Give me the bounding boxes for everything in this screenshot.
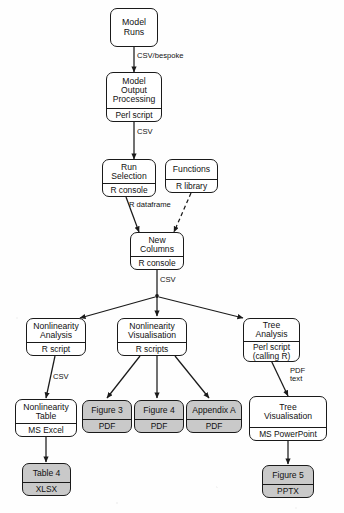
node-model-output-processing[interactable]: Model Output Processing Perl script	[106, 72, 162, 122]
edge-label-csv-to-run-selection: CSV	[137, 128, 153, 136]
node-appendix-a-title: Appendix A	[187, 401, 241, 419]
node-model-output-processing-tool: Perl script	[107, 108, 161, 121]
node-model-runs-title: Model Runs	[111, 9, 157, 46]
node-tree-analysis-tool: Perl script (calling R)	[244, 341, 299, 362]
node-new-columns-title: New Columns	[131, 233, 183, 256]
node-nonlinearity-table[interactable]: Nonlinearity Table MS Excel	[15, 399, 77, 437]
node-figure-5-title: Figure 5	[263, 466, 313, 484]
node-run-selection-tool: R console	[103, 183, 155, 196]
node-nonlinearity-table-tool: MS Excel	[16, 423, 76, 436]
node-nonlinearity-table-title: Nonlinearity Table	[16, 400, 76, 423]
node-figure-3[interactable]: Figure 3 PDF	[82, 400, 132, 433]
node-model-output-processing-title: Model Output Processing	[107, 73, 161, 108]
edge-label-r-dataframe: R dataframe	[129, 201, 171, 209]
node-nonlinearity-analysis-title: Nonlinearity Analysis	[27, 319, 85, 342]
node-run-selection-title: Run Selection	[103, 160, 155, 183]
node-functions-tool: R library	[166, 179, 217, 192]
node-nonlinearity-analysis[interactable]: Nonlinearity Analysis R script	[26, 318, 86, 356]
node-functions[interactable]: Functions R library	[165, 159, 218, 193]
node-tree-visualisation[interactable]: Tree Visualisation MS PowerPoint	[249, 396, 327, 441]
node-run-selection[interactable]: Run Selection R console	[102, 159, 156, 197]
node-appendix-a[interactable]: Appendix A PDF	[186, 400, 242, 433]
node-new-columns-tool: R console	[131, 256, 183, 269]
node-tree-analysis-title: Tree Analysis	[244, 319, 299, 341]
edge-label-csv-to-nonlinearity-table: CSV	[53, 373, 69, 381]
node-table-4[interactable]: Table 4 XLSX	[22, 463, 71, 496]
node-model-runs[interactable]: Model Runs	[110, 8, 158, 47]
node-figure-3-title: Figure 3	[83, 401, 131, 419]
node-nonlinearity-visualisation-title: Nonlinearity Visualisation	[118, 319, 186, 342]
node-figure-3-format: PDF	[83, 419, 131, 432]
node-table-4-title: Table 4	[23, 464, 70, 482]
node-new-columns[interactable]: New Columns R console	[130, 232, 184, 270]
edge-label-csv-to-branches: CSV	[160, 276, 176, 284]
node-figure-4-title: Figure 4	[135, 401, 183, 419]
node-figure-5[interactable]: Figure 5 PPTX	[262, 465, 314, 498]
node-functions-title: Functions	[166, 160, 217, 179]
flowchart-canvas: Model Runs Model Output Processing Perl …	[0, 0, 344, 513]
edge-label-csv-bespoke: CSV/bespoke	[137, 52, 183, 60]
node-tree-analysis[interactable]: Tree Analysis Perl script (calling R)	[243, 318, 300, 362]
node-figure-5-format: PPTX	[263, 484, 313, 497]
edge-label-pdf-text: PDF text	[290, 367, 305, 383]
node-nonlinearity-visualisation[interactable]: Nonlinearity Visualisation R scripts	[117, 318, 187, 356]
node-table-4-format: XLSX	[23, 482, 70, 495]
node-nonlinearity-analysis-tool: R script	[27, 342, 85, 355]
node-appendix-a-format: PDF	[187, 419, 241, 432]
node-figure-4[interactable]: Figure 4 PDF	[134, 400, 184, 433]
node-figure-4-format: PDF	[135, 419, 183, 432]
node-tree-visualisation-tool: MS PowerPoint	[250, 427, 326, 440]
node-nonlinearity-visualisation-tool: R scripts	[118, 342, 186, 355]
node-tree-visualisation-title: Tree Visualisation	[250, 397, 326, 427]
